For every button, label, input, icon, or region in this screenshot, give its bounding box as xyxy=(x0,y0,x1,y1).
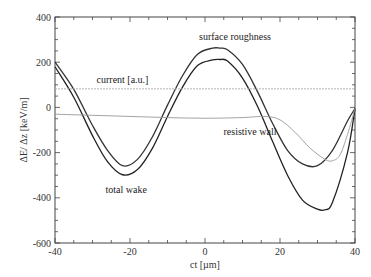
plot-frame xyxy=(55,17,355,243)
plot-border xyxy=(55,17,355,243)
annotation-label: total wake xyxy=(106,184,148,195)
x-tick-label: -20 xyxy=(123,246,136,257)
y-tick-label: 0 xyxy=(46,102,51,113)
x-tick-label: 20 xyxy=(275,246,285,257)
annotation-label: current [a.u.] xyxy=(97,74,149,85)
y-tick-label: 400 xyxy=(36,12,51,23)
x-tick-label: 40 xyxy=(350,246,360,257)
x-tick-label: 0 xyxy=(203,246,208,257)
y-tick-label: -200 xyxy=(33,147,51,158)
y-axis-title: ΔE/ Δz [keV/m] xyxy=(18,97,29,162)
wake-potential-chart: -40-20020404002000-200-400-600 surface r… xyxy=(0,0,371,277)
annotation-label: resistive wall xyxy=(223,126,276,137)
data-series xyxy=(55,48,355,211)
y-tick-label: 200 xyxy=(36,57,51,68)
y-tick-label: -400 xyxy=(33,192,51,203)
series-resistive-wall xyxy=(55,109,355,162)
y-tick-label: -600 xyxy=(33,238,51,249)
x-axis-title: ct [µm] xyxy=(190,259,220,270)
annotations: surface roughnesscurrent [a.u.]resistive… xyxy=(97,31,277,196)
axis-ticks: -40-20020404002000-200-400-600 xyxy=(33,12,360,258)
annotation-label: surface roughness xyxy=(199,31,271,42)
